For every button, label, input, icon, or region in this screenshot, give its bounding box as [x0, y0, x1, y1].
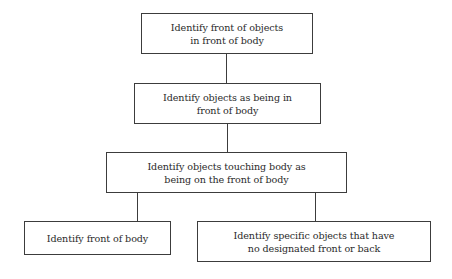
- node-identify-objects-in-front: Identify objects as being in front of bo…: [134, 83, 321, 124]
- node-text-line: Identify objects touching body as: [147, 160, 305, 173]
- node-text-line: Identify specific objects that have: [234, 229, 395, 242]
- connector-n1-n2: [226, 53, 227, 83]
- node-identify-objects-no-front-back: Identify specific objects that have no d…: [197, 221, 431, 262]
- node-text-line: being on the front of body: [147, 173, 305, 186]
- node-text-line: in front of body: [171, 34, 283, 47]
- connector-n2-n3: [227, 123, 228, 152]
- node-identify-objects-touching-body: Identify objects touching body as being …: [106, 152, 347, 193]
- flowchart-canvas: Identify front of objects in front of bo…: [0, 0, 452, 279]
- node-text-line: Identify front of body: [47, 232, 148, 245]
- connector-n3-n5: [315, 192, 316, 221]
- node-text-line: Identify objects as being in: [163, 91, 292, 104]
- node-identify-front-of-objects: Identify front of objects in front of bo…: [141, 13, 313, 54]
- connector-n3-n4: [137, 192, 138, 221]
- node-text-line: Identify front of objects: [171, 21, 283, 34]
- node-identify-front-of-body: Identify front of body: [24, 221, 171, 255]
- node-text-line: no designated front or back: [234, 242, 395, 255]
- node-text-line: front of body: [163, 104, 292, 117]
